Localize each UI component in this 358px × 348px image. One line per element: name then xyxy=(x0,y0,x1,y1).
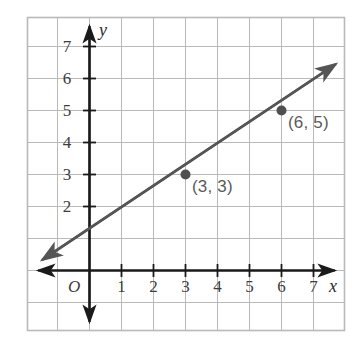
point-label-6-5: (6, 5) xyxy=(288,113,329,133)
point-label-3-3: (3, 3) xyxy=(192,177,233,197)
x-tick-label-3: 3 xyxy=(176,277,195,297)
origin-label: O xyxy=(68,277,80,297)
y-tick-label-5: 5 xyxy=(58,101,76,121)
x-tick-label-7: 7 xyxy=(304,277,323,297)
y-tick-label-2: 2 xyxy=(58,197,76,217)
x-tick-label-1: 1 xyxy=(112,277,131,297)
y-axis-label: y xyxy=(99,20,107,41)
y-tick-label-3: 3 xyxy=(58,165,76,185)
x-tick-label-2: 2 xyxy=(144,277,163,297)
data-point-3-3 xyxy=(181,170,191,180)
x-tick-label-4: 4 xyxy=(208,277,227,297)
y-tick-label-6: 6 xyxy=(58,69,76,89)
x-tick-label-5: 5 xyxy=(240,277,259,297)
y-tick-label-7: 7 xyxy=(58,37,76,57)
y-tick-label-4: 4 xyxy=(58,133,76,153)
coordinate-plane-figure: 7 6 5 4 3 2 1 2 3 4 5 6 7 O x y (3, 3) (… xyxy=(0,0,358,348)
x-axis-label: x xyxy=(329,276,337,297)
x-tick-label-6: 6 xyxy=(272,277,291,297)
data-point-6-5 xyxy=(277,106,287,116)
